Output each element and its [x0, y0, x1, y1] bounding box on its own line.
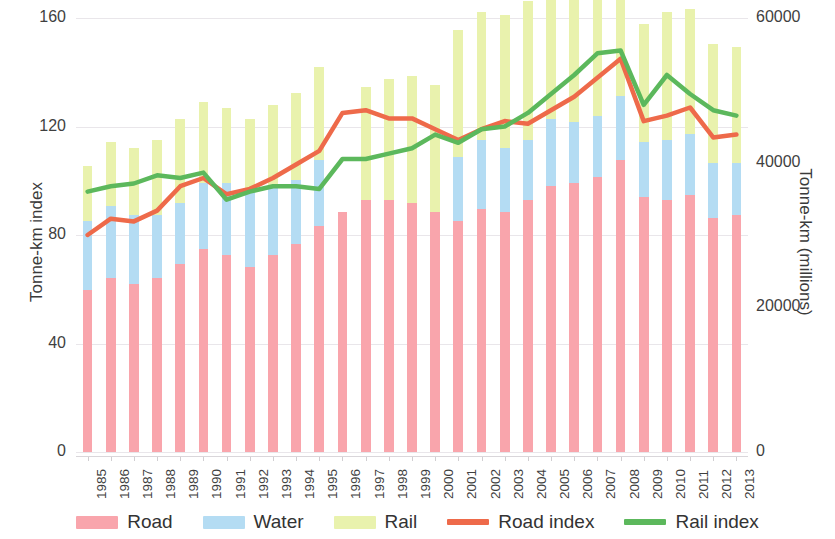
plot-area	[76, 14, 748, 456]
x-axis-tickmark	[713, 457, 714, 461]
x-axis-tick-label: 1994	[302, 469, 317, 499]
x-axis-tickmark	[412, 457, 413, 461]
x-axis-tickmark	[574, 457, 575, 461]
y-axis-left-tick-label: 80	[10, 225, 66, 243]
x-axis-tickmark	[389, 457, 390, 461]
x-axis-tick-label: 1995	[325, 469, 340, 499]
x-axis-tickmark	[366, 457, 367, 461]
x-axis-tick-label: 2000	[441, 469, 456, 499]
x-axis-tickmark	[227, 457, 228, 461]
x-axis-tick-label: 1996	[348, 469, 363, 499]
y-axis-right-tick-label: 20000	[756, 297, 801, 315]
x-axis-tick-label: 2013	[742, 469, 757, 499]
legend-item-road-index[interactable]: Road index	[447, 511, 594, 533]
y-axis-left-ticks: 04080120160	[0, 0, 66, 470]
x-axis-tick-label: 1989	[186, 469, 201, 499]
x-axis-tickmark	[319, 457, 320, 461]
x-axis-tick-label: 2011	[696, 470, 711, 499]
legend-swatch-icon	[334, 516, 376, 529]
legend-label: Rail index	[675, 511, 758, 533]
x-axis-tick-label: 2001	[464, 469, 479, 499]
x-axis-tickmark	[597, 457, 598, 461]
x-axis-tick-label: 2012	[719, 469, 734, 499]
x-axis-tick-label: 1987	[140, 469, 155, 499]
x-axis-tick-label: 2008	[627, 469, 642, 499]
y-axis-left-tick-label: 0	[10, 442, 66, 460]
x-axis-tickmark	[736, 457, 737, 461]
x-axis-tick-label: 1985	[94, 469, 109, 499]
x-axis-tick-label: 2002	[488, 469, 503, 499]
legend-swatch-icon	[203, 516, 245, 529]
x-axis-tick-label: 1988	[163, 469, 178, 499]
y-axis-right-tick-label: 0	[756, 442, 765, 460]
legend-item-road[interactable]: Road	[76, 511, 172, 533]
x-axis-tick-label: 1997	[372, 469, 387, 499]
x-axis-tick-label: 1991	[233, 469, 248, 499]
x-axis-tickmark	[273, 457, 274, 461]
x-axis-tickmark	[88, 457, 89, 461]
chart-legend: RoadWaterRailRoad indexRail index	[0, 511, 835, 533]
x-axis-tickmark	[667, 457, 668, 461]
x-axis-tickmark	[157, 457, 158, 461]
x-axis-tick-label: 2007	[603, 469, 618, 499]
x-axis-tick-label: 2005	[557, 469, 572, 499]
x-axis-tick-label: 1999	[418, 469, 433, 499]
x-axis-tick-label: 1986	[117, 469, 132, 499]
x-axis-tickmark	[435, 457, 436, 461]
x-axis-tickmark	[458, 457, 459, 461]
legend-swatch-icon	[76, 516, 118, 529]
line-series-rail-index[interactable]	[88, 51, 737, 200]
x-axis-tick-label: 2003	[511, 469, 526, 499]
legend-item-water[interactable]: Water	[203, 511, 304, 533]
x-axis-tickmark	[134, 457, 135, 461]
x-axis-tickmark	[180, 457, 181, 461]
x-axis-tick-label: 1993	[279, 469, 294, 499]
legend-item-rail[interactable]: Rail	[334, 511, 418, 533]
x-axis-tickmark	[621, 457, 622, 461]
legend-label: Water	[254, 511, 304, 533]
legend-label: Rail	[385, 511, 418, 533]
legend-label: Road index	[498, 511, 594, 533]
y-axis-left-tick-label: 120	[10, 117, 66, 135]
y-axis-left-tick-label: 40	[10, 334, 66, 352]
x-axis-tick-label: 1992	[256, 469, 271, 499]
legend-swatch-icon	[624, 519, 666, 525]
y-axis-right-ticks: 0200004000060000	[756, 0, 835, 470]
line-series-layer	[76, 14, 748, 456]
legend-swatch-icon	[447, 519, 489, 525]
x-axis-tickmark	[250, 457, 251, 461]
x-axis-tickmark	[644, 457, 645, 461]
y-axis-right-tick-label: 40000	[756, 153, 801, 171]
x-axis-tick-label: 2010	[673, 469, 688, 499]
x-axis-tickmark	[505, 457, 506, 461]
y-axis-left-tick-label: 160	[10, 8, 66, 26]
x-axis-tick-label: 2009	[650, 469, 665, 499]
x-axis-tick-label: 1998	[395, 469, 410, 499]
legend-item-rail-index[interactable]: Rail index	[624, 511, 758, 533]
x-axis-tickmark	[111, 457, 112, 461]
legend-label: Road	[127, 511, 172, 533]
x-axis-tickmark	[551, 457, 552, 461]
y-axis-right-tick-label: 60000	[756, 8, 801, 26]
x-axis-tickmark	[690, 457, 691, 461]
x-axis-tick-label: 1990	[209, 469, 224, 499]
x-axis-tickmark	[528, 457, 529, 461]
chart-container: Tonne-km index Tonne-km (millions) 04080…	[0, 0, 835, 539]
x-axis-tick-label: 2006	[580, 469, 595, 499]
x-axis-tickmark	[296, 457, 297, 461]
x-axis-tickmark	[342, 457, 343, 461]
x-axis-tick-label: 2004	[534, 469, 549, 499]
x-axis-tickmark	[482, 457, 483, 461]
x-axis-tickmark	[203, 457, 204, 461]
